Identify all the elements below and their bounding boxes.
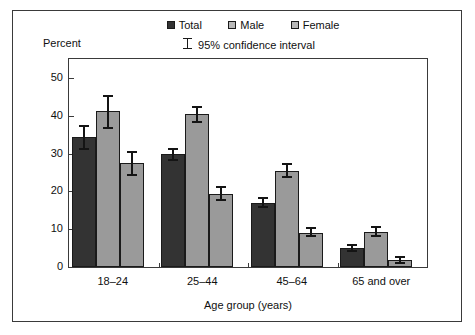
y-axis-tick-mark [69,116,74,117]
legend-swatch-total-icon [167,21,175,29]
legend-label-total: Total [179,19,202,31]
x-axis-tick-mark [338,263,339,268]
error-bar-male [282,163,292,178]
error-bar-male [103,95,113,129]
legend-swatch-female-icon [291,21,299,29]
legend-label-male: Male [240,19,264,31]
y-axis-tick-mark [69,78,74,79]
y-axis-tick-label: 30 [51,147,63,159]
bar-total [251,203,275,267]
legend-swatch-male-icon [228,21,236,29]
legend-label-female: Female [303,19,340,31]
bar-male [275,171,299,267]
x-axis-tick-mark [159,263,160,268]
legend-entry-male: Male [228,17,264,32]
bar-female [299,233,323,267]
y-axis-tick-mark [69,267,74,268]
bar-male [364,232,388,267]
error-bar-female [127,151,137,176]
legend-entry-confidence-interval: 95% confidence interval [183,37,315,52]
error-bar-total [347,244,357,252]
x-axis-tick-label: 45–64 [247,275,337,287]
bar-total [161,154,185,267]
error-bar-total [168,148,178,161]
y-axis-tick-label: 50 [51,71,63,83]
bar-male [185,114,209,267]
legend-label-confidence-interval: 95% confidence interval [198,39,315,51]
bar-female [209,194,233,267]
chart-figure: Total Male Female 95% confidence interva… [12,10,462,322]
error-bar-icon [183,38,192,49]
error-bar-total [79,125,89,150]
x-axis-tick-label: 18–24 [68,275,158,287]
plot-area: 01020304050 [68,58,428,268]
legend-series-row: Total Male Female [45,17,461,32]
x-axis-tick-label: 25–44 [158,275,248,287]
x-axis-title: Age group (years) [68,299,428,311]
y-axis-tick-label: 10 [51,222,63,234]
error-bar-male [371,226,381,237]
error-bar-female [216,186,226,201]
x-axis-tick-mark [427,263,428,268]
x-axis-tick-label: 65 and over [337,275,427,287]
legend-ci-row: 95% confidence interval [37,36,461,52]
bar-male [96,111,120,267]
y-axis-tick-label: 0 [57,260,63,272]
y-axis-tick-label: 40 [51,109,63,121]
x-axis-tick-mark [248,263,249,268]
error-bar-total [258,197,268,208]
bar-female [120,163,144,267]
plot-inner: 01020304050 [69,59,427,267]
bar-total [72,137,96,267]
error-bar-female [306,227,316,236]
y-axis-title: Percent [43,37,81,49]
error-bar-female [395,256,405,264]
legend-entry-female: Female [291,17,340,32]
error-bar-male [192,106,202,123]
legend-entry-total: Total [167,17,202,32]
y-axis-tick-label: 20 [51,184,63,196]
